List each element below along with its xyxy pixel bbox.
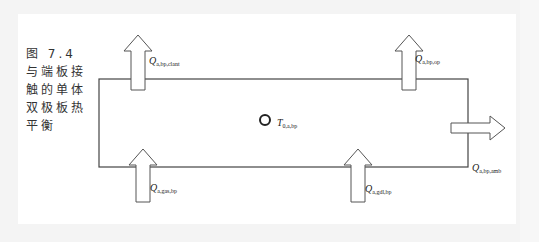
heat-balance-diagram bbox=[0, 0, 539, 242]
temperature-node-icon bbox=[260, 115, 270, 125]
label-t-center: T0,a,bp bbox=[277, 117, 297, 129]
label-q-gas: Qa,gas,bp bbox=[150, 182, 177, 194]
arrow-up-clant-icon bbox=[124, 35, 152, 90]
arrow-up-gas-icon bbox=[129, 149, 157, 202]
label-q-clant: Qa,bp,clant bbox=[149, 55, 180, 67]
arrow-right-amb-icon bbox=[451, 116, 505, 140]
label-q-gdl: Qa,gdl,bp bbox=[365, 183, 392, 195]
label-q-op: Qa,bp,op bbox=[415, 53, 440, 65]
label-q-amb: Qa,bp,amb bbox=[472, 162, 501, 174]
